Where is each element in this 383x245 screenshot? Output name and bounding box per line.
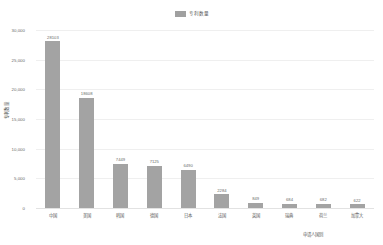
bar-value-label: 28103 bbox=[47, 35, 59, 40]
bar-rect[interactable] bbox=[248, 203, 263, 208]
bar-series: 28103中国18608美国7449韩国7125德国6490日本2284法国84… bbox=[36, 30, 374, 208]
bar-group[interactable]: 684瑞典 bbox=[273, 30, 307, 208]
bar-rect[interactable] bbox=[45, 41, 60, 208]
x-axis-category-label: 瑞典 bbox=[285, 212, 293, 218]
x-axis-category-label: 日本 bbox=[184, 212, 192, 218]
legend-item-label: 专利数量 bbox=[189, 11, 209, 17]
x-axis-category-label: 英国 bbox=[252, 212, 260, 218]
x-axis-title: 申请人国别 bbox=[303, 231, 323, 237]
bar-rect[interactable] bbox=[147, 166, 162, 208]
x-axis-category-label: 法国 bbox=[218, 212, 226, 218]
bar-rect[interactable] bbox=[79, 98, 94, 208]
x-axis-category-label: 韩国 bbox=[116, 212, 124, 218]
y-axis-tick-label: 5,000 bbox=[0, 176, 25, 181]
bar-rect[interactable] bbox=[113, 164, 128, 208]
bar-value-label: 18608 bbox=[81, 91, 93, 96]
bar-group[interactable]: 18608美国 bbox=[70, 30, 104, 208]
y-axis-tick-label: 30,000 bbox=[0, 28, 25, 33]
y-axis-tick-label: 10,000 bbox=[0, 146, 25, 151]
bar-value-label: 682 bbox=[320, 197, 327, 202]
bar-group[interactable]: 28103中国 bbox=[36, 30, 70, 208]
bar-group[interactable]: 622加拿大 bbox=[340, 30, 374, 208]
gridline bbox=[36, 208, 374, 209]
bar-value-label: 6490 bbox=[183, 163, 192, 168]
x-axis-category-label: 荷兰 bbox=[319, 212, 327, 218]
bar-value-label: 7125 bbox=[150, 159, 159, 164]
bar-value-label: 622 bbox=[354, 198, 361, 203]
bar-chart-figure: 专利数量 专利数量 申请人国别 05,00010,00015,00020,000… bbox=[0, 0, 383, 245]
bar-rect[interactable] bbox=[181, 170, 196, 209]
x-axis-category-label: 加拿大 bbox=[351, 212, 363, 218]
y-axis-tick-label: 15,000 bbox=[0, 117, 25, 122]
bar-group[interactable]: 7449韩国 bbox=[104, 30, 138, 208]
plot-area: 05,00010,00015,00020,00025,00030,000 281… bbox=[36, 30, 374, 208]
y-axis-tick-label: 0 bbox=[0, 206, 25, 211]
y-axis-tick-label: 25,000 bbox=[0, 57, 25, 62]
x-axis-category-label: 德国 bbox=[150, 212, 158, 218]
x-axis-category-label: 美国 bbox=[83, 212, 91, 218]
chart-legend: 专利数量 bbox=[0, 11, 383, 17]
y-axis-tick-label: 20,000 bbox=[0, 87, 25, 92]
bar-rect[interactable] bbox=[214, 194, 229, 208]
bar-rect[interactable] bbox=[350, 204, 365, 208]
bar-value-label: 7449 bbox=[116, 157, 125, 162]
bar-value-label: 684 bbox=[286, 197, 293, 202]
bar-rect[interactable] bbox=[316, 204, 331, 208]
legend-swatch-icon bbox=[175, 11, 186, 17]
bar-value-label: 849 bbox=[252, 196, 259, 201]
x-axis-category-label: 中国 bbox=[49, 212, 57, 218]
bar-group[interactable]: 2284法国 bbox=[205, 30, 239, 208]
bar-rect[interactable] bbox=[282, 204, 297, 208]
bar-group[interactable]: 6490日本 bbox=[171, 30, 205, 208]
bar-value-label: 2284 bbox=[217, 188, 226, 193]
bar-group[interactable]: 682荷兰 bbox=[306, 30, 340, 208]
bar-group[interactable]: 7125德国 bbox=[137, 30, 171, 208]
bar-group[interactable]: 849英国 bbox=[239, 30, 273, 208]
